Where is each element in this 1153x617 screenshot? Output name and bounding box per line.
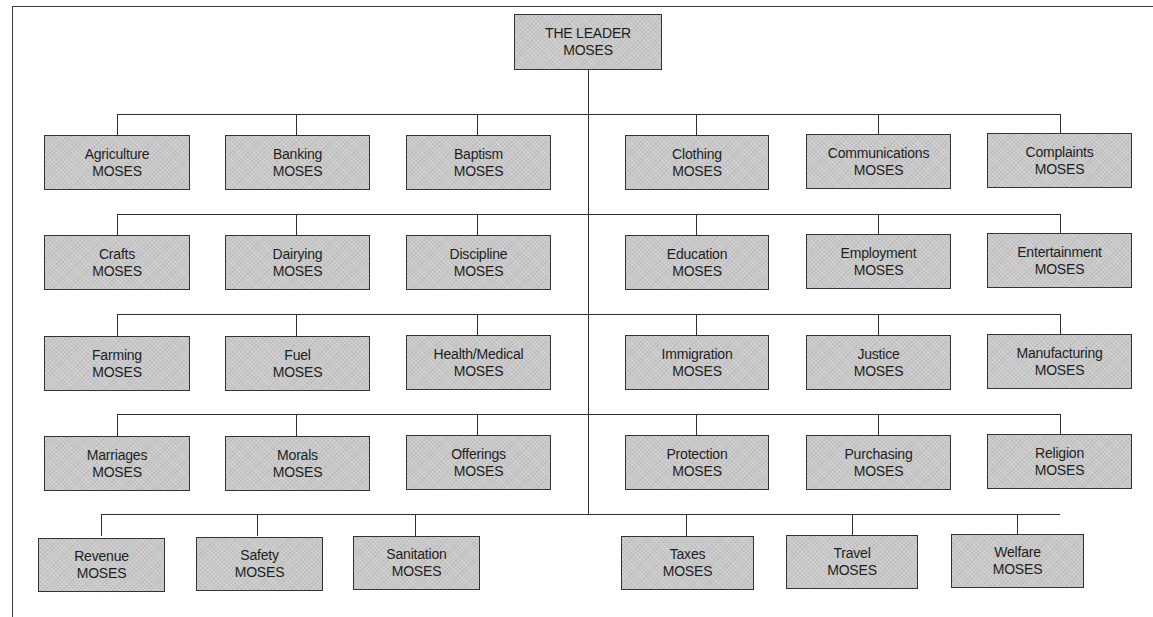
dept-box-immigration: Immigration MOSES [625,335,769,390]
dept-box-taxes: Taxes MOSES [621,536,754,590]
dept-box-farming: Farming MOSES [44,336,190,391]
drop-line [696,114,697,135]
dept-label: Dairying [273,246,323,263]
dept-head: MOSES [454,163,504,180]
dept-label: Manufacturing [1016,345,1102,362]
dept-head: MOSES [92,163,142,180]
drop-line [296,314,297,336]
dept-head: MOSES [854,262,904,279]
drop-line [117,214,118,235]
dept-head: MOSES [993,561,1043,578]
dept-label: Crafts [99,246,135,263]
dept-head: MOSES [77,565,127,582]
row-connector [117,314,1061,315]
drop-line [117,414,118,436]
drop-line [696,314,697,336]
dept-box-morals: Morals MOSES [225,436,370,491]
dept-box-offerings: Offerings MOSES [406,435,551,490]
dept-box-fuel: Fuel MOSES [225,336,370,391]
dept-head: MOSES [672,463,722,480]
dept-label: Entertainment [1017,244,1102,261]
frame-border-left [12,6,13,617]
drop-line [1060,114,1061,135]
dept-label: Offerings [451,446,506,463]
dept-box-dairying: Dairying MOSES [225,235,370,290]
dept-box-baptism: Baptism MOSES [406,135,551,190]
dept-box-education: Education MOSES [625,235,769,290]
dept-label: Sanitation [386,546,446,563]
dept-box-justice: Justice MOSES [806,335,951,390]
org-chart: THE LEADER MOSES Agriculture MOSES Banki… [0,0,1153,617]
dept-label: Justice [857,346,899,363]
drop-line [878,314,879,336]
dept-label: Marriages [87,447,147,464]
drop-line [101,514,102,536]
dept-box-crafts: Crafts MOSES [44,235,190,290]
drop-line [696,414,697,436]
dept-label: Discipline [450,246,508,263]
dept-label: Health/Medical [434,346,524,363]
drop-line [477,414,478,436]
dept-label: Agriculture [85,146,150,163]
trunk-line [588,70,589,514]
dept-box-employment: Employment MOSES [806,234,951,289]
dept-box-agriculture: Agriculture MOSES [44,135,190,190]
dept-label: Fuel [284,347,310,364]
dept-head: MOSES [827,562,877,579]
dept-label: Complaints [1025,144,1093,161]
dept-head: MOSES [672,263,722,280]
drop-line [878,414,879,436]
dept-head: MOSES [92,464,142,481]
dept-label: Farming [92,347,142,364]
dept-label: Employment [841,245,917,262]
dept-label: Communications [828,145,929,162]
dept-box-welfare: Welfare MOSES [951,534,1084,588]
row-connector [117,414,1061,415]
drop-line [415,514,416,536]
leader-box: THE LEADER MOSES [514,14,662,70]
dept-box-complaints: Complaints MOSES [987,133,1132,188]
dept-box-religion: Religion MOSES [987,434,1132,489]
dept-head: MOSES [854,162,904,179]
dept-head: MOSES [454,363,504,380]
dept-head: MOSES [1035,462,1085,479]
dept-head: MOSES [1035,362,1085,379]
dept-head: MOSES [92,364,142,381]
dept-head: MOSES [392,563,442,580]
drop-line [686,514,687,536]
drop-line [1060,414,1061,436]
dept-head: MOSES [854,363,904,380]
dept-box-revenue: Revenue MOSES [38,538,165,592]
dept-label: Purchasing [844,446,912,463]
leader-name: MOSES [563,42,613,59]
dept-label: Protection [666,446,727,463]
drop-line [117,114,118,135]
dept-label: Welfare [994,544,1041,561]
dept-label: Taxes [670,546,706,563]
dept-box-purchasing: Purchasing MOSES [806,435,951,490]
leader-title: THE LEADER [545,25,631,42]
drop-line [477,214,478,235]
dept-label: Education [667,246,727,263]
dept-box-manufacturing: Manufacturing MOSES [987,334,1132,389]
dept-label: Morals [277,447,318,464]
drop-line [878,214,879,235]
drop-line [296,114,297,135]
dept-label: Religion [1035,445,1084,462]
drop-line [477,314,478,336]
dept-head: MOSES [273,464,323,481]
row-connector [117,114,1061,115]
dept-box-discipline: Discipline MOSES [406,235,551,290]
drop-line [1060,314,1061,336]
dept-head: MOSES [454,463,504,480]
drop-line [296,414,297,436]
dept-label: Safety [240,547,279,564]
frame-border-top [12,6,1153,7]
dept-head: MOSES [854,463,904,480]
dept-head: MOSES [92,263,142,280]
dept-label: Immigration [662,346,733,363]
drop-line [1060,214,1061,235]
dept-head: MOSES [672,163,722,180]
dept-box-health-medical: Health/Medical MOSES [406,335,551,390]
dept-label: Travel [833,545,870,562]
